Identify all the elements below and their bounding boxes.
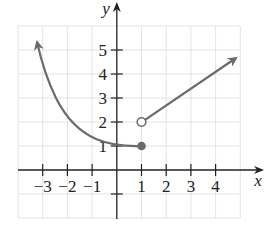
y-tick-label: 4 xyxy=(99,65,108,84)
left-curve xyxy=(37,42,142,146)
open-dot xyxy=(137,118,146,127)
x-tick-label: −3 xyxy=(34,177,52,196)
x-tick-label: −1 xyxy=(83,177,101,196)
x-tick-label: 1 xyxy=(137,177,146,196)
y-tick-labels: 1 2 3 4 5 xyxy=(99,41,108,156)
x-tick-label: 2 xyxy=(162,177,171,196)
closed-dot xyxy=(137,142,146,151)
piecewise-function-graph: −3 −2 −1 1 2 3 4 1 2 3 4 5 x y xyxy=(0,0,271,226)
y-tick-label: 3 xyxy=(99,89,108,108)
y-tick-label: 2 xyxy=(99,113,108,132)
x-tick-label: 4 xyxy=(211,177,220,196)
y-tick-label: 5 xyxy=(99,41,108,60)
y-axis-label: y xyxy=(100,0,110,18)
x-axis-label: x xyxy=(253,171,262,190)
x-tick-label: 3 xyxy=(187,177,196,196)
x-tick-label: −2 xyxy=(58,177,76,196)
x-tick-labels: −3 −2 −1 1 2 3 4 xyxy=(34,177,221,196)
